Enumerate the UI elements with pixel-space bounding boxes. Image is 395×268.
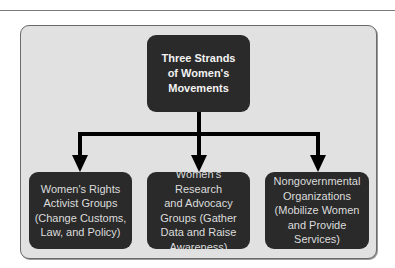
root-node: Three Strands of Women's Movements	[147, 35, 250, 112]
child-node-label: Women's Research and Advocacy Groups (Ga…	[151, 167, 246, 254]
child-node-ngos: Nongovernmental Organizations (Mobilize …	[265, 172, 369, 249]
child-node-research-advocacy: Women's Research and Advocacy Groups (Ga…	[147, 172, 250, 249]
child-node-womens-rights: Women's Rights Activist Groups (Change C…	[29, 172, 132, 249]
child-node-label: Nongovernmental Organizations (Mobilize …	[274, 174, 361, 247]
child-node-label: Women's Rights Activist Groups (Change C…	[35, 182, 127, 240]
root-node-label: Three Strands of Women's Movements	[162, 51, 236, 96]
arrowhead-right-icon	[310, 155, 326, 172]
arrowhead-left-icon	[72, 155, 88, 172]
